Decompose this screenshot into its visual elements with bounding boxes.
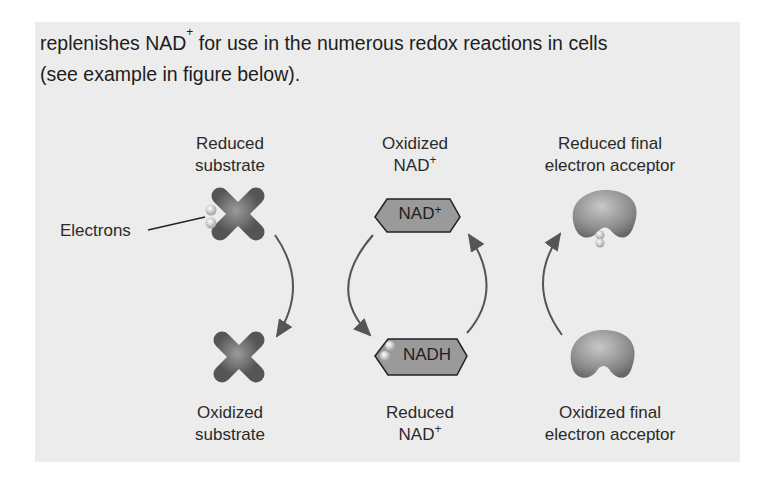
acceptor-reduction-arrow (543, 234, 562, 335)
reduced-acceptor-icon (573, 190, 637, 248)
oxidized-acceptor-icon (571, 330, 635, 378)
label-oxidized-acceptor: Oxidized final electron acceptor (530, 402, 690, 446)
nad-plus-hex-label: NAD+ (380, 204, 460, 224)
label-oxidized-substrate: Oxidized substrate (180, 402, 280, 446)
reduced-substrate-icon (220, 196, 256, 232)
substrate-oxidation-arrow (275, 235, 293, 336)
nad-reduction-arrow (348, 235, 373, 335)
nadh-oxidation-arrow (467, 235, 487, 333)
label-oxidized-nad: Oxidized NAD+ (365, 133, 465, 177)
electrons-icon (206, 205, 217, 229)
nadh-hex-label: NADH (392, 345, 462, 365)
label-reduced-substrate: Reduced substrate (180, 133, 280, 177)
label-reduced-nad: Reduced NAD+ (370, 402, 470, 446)
oxidized-substrate-icon (222, 340, 256, 374)
label-reduced-acceptor: Reduced final electron acceptor (530, 133, 690, 177)
electrons-label: Electrons (60, 220, 160, 242)
